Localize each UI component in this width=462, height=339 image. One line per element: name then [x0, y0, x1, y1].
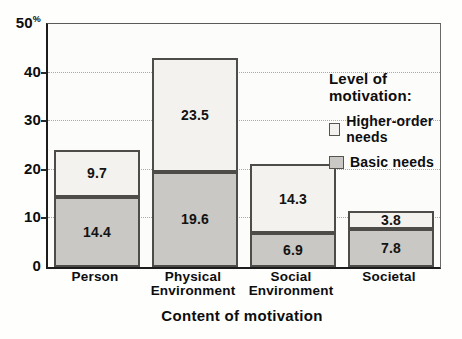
bar-value-label: 6.9: [283, 242, 303, 258]
x-tick-label-societal: Societal: [340, 270, 438, 284]
bar-segment-basic-needs: 6.9: [250, 233, 336, 267]
bar-segment-higher-order-needs: 3.8: [348, 211, 434, 229]
bar-segment-basic-needs: 14.4: [54, 197, 140, 267]
y-tick-label-40: 40: [0, 64, 41, 80]
bar-value-label: 14.4: [83, 224, 111, 240]
x-tick-label-social-environment: Social Environment: [242, 270, 340, 298]
bar-value-label: 3.8: [381, 212, 401, 228]
x-tick-label-person: Person: [46, 270, 144, 284]
stacked-bar-chart: 01020304050% 14.49.719.623.56.914.37.83.…: [0, 0, 462, 339]
bar-segment-basic-needs: 19.6: [152, 172, 238, 267]
bar-value-label: 23.5: [181, 107, 209, 123]
legend-swatch-higher-order-icon: [329, 123, 340, 136]
bar-value-label: 19.6: [181, 211, 209, 227]
x-axis-labels: PersonPhysical EnvironmentSocial Environ…: [46, 270, 438, 302]
y-tick-label-30: 30: [0, 112, 41, 128]
y-tick-label-50: 50%: [0, 11, 41, 31]
legend-swatch-basic-icon: [329, 156, 344, 169]
legend-item-label: Higher-order needs: [346, 113, 440, 145]
y-tick-label-0: 0: [0, 258, 41, 274]
bar-segment-higher-order-needs: 14.3: [250, 164, 336, 233]
bar-segment-higher-order-needs: 23.5: [152, 58, 238, 172]
bar-value-label: 7.8: [381, 240, 401, 256]
percent-sign: %: [33, 14, 41, 24]
plot-area: 14.49.719.623.56.914.37.83.8 Level of mo…: [46, 23, 441, 269]
y-tick-label-10: 10: [0, 209, 41, 225]
x-tick-label-physical-environment: Physical Environment: [144, 270, 242, 298]
y-tick-label-20: 20: [0, 161, 41, 177]
y-axis-labels: 01020304050%: [0, 23, 42, 266]
x-axis-title: Content of motivation: [46, 307, 438, 324]
legend: Level of motivation: Higher-order needs …: [329, 70, 440, 170]
bar-value-label: 9.7: [87, 165, 107, 181]
bar-segment-basic-needs: 7.8: [348, 229, 434, 267]
legend-item-label: Basic needs: [350, 154, 434, 170]
legend-item-basic-needs: Basic needs: [329, 154, 440, 170]
legend-item-higher-order-needs: Higher-order needs: [329, 113, 440, 145]
bar-segment-higher-order-needs: 9.7: [54, 150, 140, 197]
bar-value-label: 14.3: [279, 191, 307, 207]
legend-title: Level of motivation:: [329, 70, 440, 104]
